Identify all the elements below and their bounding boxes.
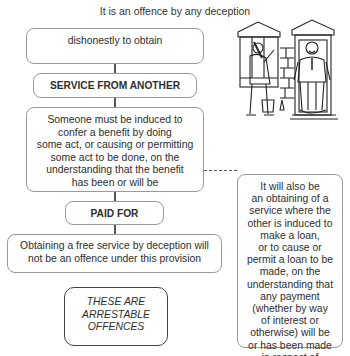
connector-line bbox=[114, 64, 116, 73]
loan-side-note: It will also be an obtaining of a servic… bbox=[237, 174, 343, 348]
connector-line bbox=[114, 192, 116, 201]
window-cleaner-illustration bbox=[236, 18, 338, 122]
flow-step-paid-for: PAID FOR bbox=[65, 201, 164, 225]
arrestable-offences-callout: THESE ARE ARRESTABLE OFFENCES bbox=[64, 287, 168, 346]
flow-step-benefit-conferred: Someone must be induced to confer a bene… bbox=[26, 107, 204, 192]
diagram-title: It is an offence by any deception bbox=[0, 5, 350, 17]
connector-line bbox=[114, 225, 116, 234]
connector-line bbox=[114, 98, 116, 107]
flow-step-free-service-note: Obtaining a free service by deception wi… bbox=[7, 234, 222, 273]
dashed-connector bbox=[204, 170, 237, 171]
flow-step-service-from-another: SERVICE FROM ANOTHER bbox=[33, 73, 197, 98]
flow-step-dishonestly-to-obtain: dishonestly to obtain bbox=[26, 28, 204, 64]
